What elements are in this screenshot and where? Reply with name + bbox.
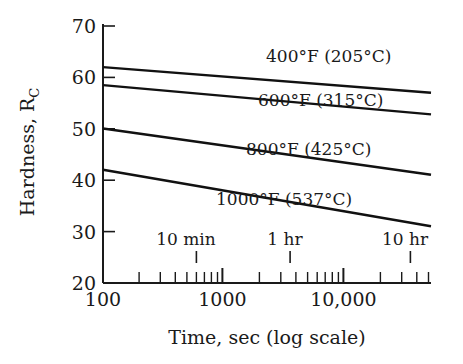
- series-label-800f: 800°F (425°C): [246, 139, 371, 159]
- hardness-vs-time-plot: 70 60 50 40 30 20: [0, 0, 463, 364]
- time-marker-label-10-min: 10 min: [156, 229, 216, 249]
- series-label-400f: 400°F (205°C): [266, 46, 391, 66]
- series-label-1000f: 1000°F (537°C): [216, 189, 352, 209]
- y-tick-label-30: 30: [72, 221, 96, 243]
- time-marker-label-1-hr: 1 hr: [267, 229, 303, 249]
- y-tick-label-70: 70: [72, 15, 96, 37]
- series-label-600f: 600°F (315°C): [258, 90, 383, 110]
- y-axis-title-subscript: C: [27, 88, 42, 98]
- y-tick-label-60: 60: [72, 66, 96, 88]
- y-tick-label-40: 40: [72, 169, 96, 191]
- svg-text:Hardness, RC: Hardness, RC: [16, 88, 42, 217]
- time-marker-ticks: [196, 251, 410, 263]
- x-tick-label-10000: 10,000: [310, 288, 376, 310]
- x-tick-label-1000: 1000: [198, 288, 246, 310]
- x-tick-label-100: 100: [85, 288, 121, 310]
- chart-container: 70 60 50 40 30 20: [0, 0, 463, 364]
- x-axis-title: Time, sec (log scale): [168, 326, 365, 348]
- y-axis-title-group: Hardness, RC: [16, 88, 42, 217]
- y-tick-label-50: 50: [72, 118, 96, 140]
- x-axis-minor-ticks: [139, 272, 428, 283]
- y-axis-ticks: [103, 26, 115, 283]
- time-marker-label-10-hr: 10 hr: [382, 229, 429, 249]
- y-axis-title: Hardness, R: [16, 97, 38, 216]
